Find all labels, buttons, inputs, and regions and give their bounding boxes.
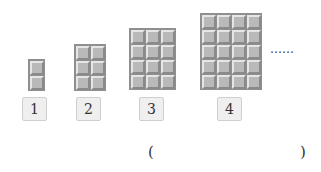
tile <box>76 76 90 90</box>
tile <box>217 15 231 29</box>
tile <box>232 30 246 44</box>
tile <box>232 60 246 74</box>
answer-blank[interactable] <box>158 145 298 163</box>
tile <box>131 30 145 44</box>
tile <box>30 76 44 90</box>
tile <box>91 76 105 90</box>
continuation-dots: …… <box>270 42 294 56</box>
tile <box>202 75 216 89</box>
tile <box>76 46 90 60</box>
tile <box>217 30 231 44</box>
tile <box>232 15 246 29</box>
tile <box>131 60 145 74</box>
figure-label-4: 4 <box>217 97 242 121</box>
tile <box>247 30 261 44</box>
tile <box>247 60 261 74</box>
tile <box>247 75 261 89</box>
tile <box>202 15 216 29</box>
tile <box>91 46 105 60</box>
tile <box>202 30 216 44</box>
tile <box>146 30 160 44</box>
figure-2 <box>74 44 106 91</box>
tile <box>247 45 261 59</box>
tile <box>131 75 145 89</box>
tile <box>247 15 261 29</box>
tile <box>161 45 175 59</box>
figure-3 <box>129 28 176 90</box>
figure-4 <box>200 13 262 90</box>
tile <box>202 45 216 59</box>
tile <box>161 60 175 74</box>
tile <box>91 61 105 75</box>
tile <box>146 45 160 59</box>
tile <box>161 30 175 44</box>
tile <box>146 75 160 89</box>
tile <box>161 75 175 89</box>
tile <box>217 75 231 89</box>
tile <box>146 60 160 74</box>
tile <box>217 60 231 74</box>
tile <box>30 61 44 75</box>
tile <box>232 45 246 59</box>
figure-label-2: 2 <box>76 97 101 121</box>
answer-open-paren: ( <box>148 143 154 161</box>
tile <box>76 61 90 75</box>
tile <box>202 60 216 74</box>
tile <box>232 75 246 89</box>
tile <box>131 45 145 59</box>
figure-1 <box>28 59 45 91</box>
tile <box>217 45 231 59</box>
answer-close-paren: ) <box>300 143 306 161</box>
figure-label-1: 1 <box>22 97 47 121</box>
figure-label-3: 3 <box>139 97 164 121</box>
